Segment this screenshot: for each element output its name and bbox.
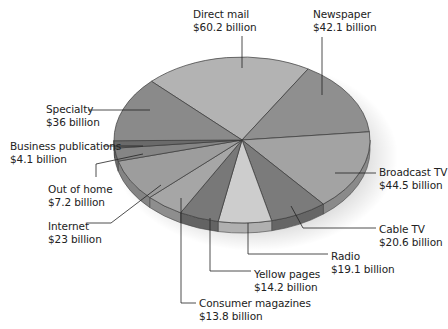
slice-label-name: Internet <box>48 220 102 233</box>
slice-label-name: Cable TV <box>379 223 443 236</box>
slice-label-value: $4.1 billion <box>10 153 121 166</box>
slice-label-value: $36 billion <box>46 116 100 129</box>
slice-label-name: Newspaper <box>313 8 377 21</box>
slice-label-radio: Radio$19.1 billion <box>331 250 395 276</box>
slice-label-internet: Internet$23 billion <box>48 220 102 246</box>
slice-label-value: $14.2 billion <box>254 281 320 294</box>
slice-label-value: $42.1 billion <box>313 21 377 34</box>
pie-slices <box>114 57 370 223</box>
slice-label-newspaper: Newspaper$42.1 billion <box>313 8 377 34</box>
slice-label-specialty: Specialty$36 billion <box>46 103 100 129</box>
slice-label-cable-tv: Cable TV$20.6 billion <box>379 223 443 249</box>
slice-label-name: Yellow pages <box>254 268 320 281</box>
slice-label-value: $60.2 billion <box>193 21 257 34</box>
slice-label-name: Direct mail <box>193 8 257 21</box>
slice-label-value: $7.2 billion <box>48 196 113 209</box>
slice-label-direct-mail: Direct mail$60.2 billion <box>193 8 257 34</box>
slice-label-value: $23 billion <box>48 233 102 246</box>
slice-label-value: $20.6 billion <box>379 236 443 249</box>
slice-label-name: Out of home <box>48 183 113 196</box>
slice-label-name: Business publications <box>10 140 121 153</box>
slice-label-broadcast-tv: Broadcast TV$44.5 billion <box>379 166 447 192</box>
slice-label-value: $19.1 billion <box>331 263 395 276</box>
slice-label-name: Radio <box>331 250 395 263</box>
slice-label-business-publications: Business publications$4.1 billion <box>10 140 121 166</box>
slice-label-name: Specialty <box>46 103 100 116</box>
slice-label-value: $44.5 billion <box>379 179 447 192</box>
slice-label-name: Consumer magazines <box>199 297 311 310</box>
slice-label-value: $13.8 billion <box>199 310 311 323</box>
slice-label-yellow-pages: Yellow pages$14.2 billion <box>254 268 320 294</box>
slice-label-name: Broadcast TV <box>379 166 447 179</box>
slice-label-out-of-home: Out of home$7.2 billion <box>48 183 113 209</box>
slice-label-consumer-magazines: Consumer magazines$13.8 billion <box>199 297 311 323</box>
